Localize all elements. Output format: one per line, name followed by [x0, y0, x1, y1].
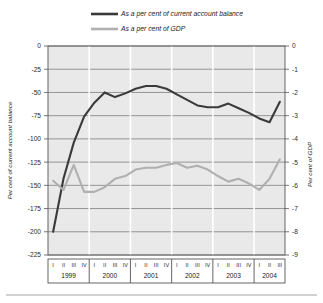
ytick-left-0: 0: [37, 42, 41, 49]
xtick-quarter-2003-I: I: [217, 262, 219, 268]
xtick-quarter-2002-IV: IV: [205, 262, 211, 268]
ytick-left--25: -25: [31, 66, 41, 73]
xtick-quarter-2000-III: III: [113, 262, 118, 268]
xtick-year-2003: 2003: [226, 272, 241, 279]
xtick-quarter-2004-II: II: [268, 262, 272, 268]
legend-label-current-account: As a per cent of current account balance: [120, 10, 243, 18]
left-axis-title: Per cent of current account balance: [6, 101, 13, 199]
xtick-quarter-2001-II: II: [144, 262, 148, 268]
xtick-year-2000: 2000: [102, 272, 117, 279]
ytick-left--225: -225: [28, 251, 42, 258]
xtick-quarter-2001-IV: IV: [164, 262, 170, 268]
plot-background: [48, 46, 285, 255]
xtick-quarter-2002-I: I: [176, 262, 178, 268]
xtick-quarter-1999-I: I: [52, 262, 54, 268]
xtick-quarter-2003-II: II: [227, 262, 231, 268]
xtick-quarter-2000-IV: IV: [123, 262, 129, 268]
xtick-quarter-2003-IV: IV: [246, 262, 252, 268]
ytick-left--175: -175: [28, 205, 42, 212]
xtick-quarter-1999-IV: IV: [81, 262, 87, 268]
xtick-quarter-2002-III: III: [195, 262, 200, 268]
xtick-year-2001: 2001: [144, 272, 159, 279]
xtick-quarter-2000-I: I: [94, 262, 96, 268]
xtick-quarter-1999-III: III: [71, 262, 76, 268]
xtick-year-2004: 2004: [262, 272, 277, 279]
xtick-quarter-2001-III: III: [154, 262, 159, 268]
ytick-right--3: -3: [292, 112, 298, 119]
xtick-quarter-2004-III: III: [278, 262, 283, 268]
legend-label-gdp: As a per cent of GDP: [120, 25, 186, 33]
line-chart: As a per cent of current account balance…: [0, 0, 323, 303]
ytick-right--5: -5: [292, 159, 298, 166]
xtick-quarter-2001-I: I: [135, 262, 137, 268]
xtick-quarter-2004-I: I: [258, 262, 260, 268]
chart-figure: As a per cent of current account balance…: [0, 0, 323, 303]
ytick-left--75: -75: [31, 112, 41, 119]
ytick-left--50: -50: [31, 89, 41, 96]
ytick-right--6: -6: [292, 182, 298, 189]
right-axis-title: Per cent of GDP: [306, 141, 313, 187]
xtick-year-1999: 1999: [61, 272, 76, 279]
xtick-year-2002: 2002: [185, 272, 200, 279]
ytick-right--8: -8: [292, 228, 298, 235]
xtick-quarter-1999-II: II: [62, 262, 66, 268]
xtick-quarter-2000-II: II: [103, 262, 107, 268]
ytick-right--4: -4: [292, 135, 298, 142]
ytick-left--200: -200: [28, 228, 42, 235]
xtick-quarter-2003-III: III: [236, 262, 241, 268]
xtick-quarter-2002-II: II: [186, 262, 190, 268]
ytick-left--150: -150: [28, 182, 42, 189]
ytick-left--100: -100: [28, 135, 42, 142]
ytick-right--9: -9: [292, 251, 298, 258]
ytick-right--7: -7: [292, 205, 298, 212]
ytick-right-0: 0: [292, 42, 296, 49]
ytick-right--2: -2: [292, 89, 298, 96]
ytick-right--1: -1: [292, 66, 298, 73]
ytick-left--125: -125: [28, 159, 42, 166]
